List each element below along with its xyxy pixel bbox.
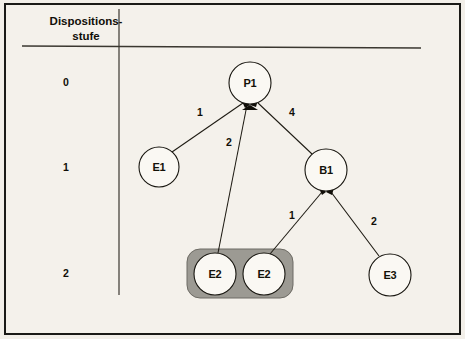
node-p1-label: P1 bbox=[243, 77, 256, 89]
node-b1-label: B1 bbox=[319, 164, 333, 176]
edge-label-e3-b1: 2 bbox=[371, 215, 377, 227]
edge-label-e2a-p1: 2 bbox=[226, 136, 232, 148]
node-e2-first[interactable]: E2 bbox=[194, 253, 236, 295]
header-title-line1: Dispositions- bbox=[50, 15, 123, 27]
node-p1[interactable]: P1 bbox=[229, 62, 271, 104]
edge-e1-to-p1 bbox=[172, 103, 243, 152]
node-e1-label: E1 bbox=[152, 161, 165, 173]
node-e1[interactable]: E1 bbox=[139, 147, 179, 187]
node-e2-first-label: E2 bbox=[208, 268, 221, 280]
header-horizontal-rule bbox=[22, 46, 421, 48]
disposition-level-diagram: Dispositions- stufe 0 1 2 bbox=[0, 0, 465, 339]
node-e2-second-label: E2 bbox=[257, 268, 270, 280]
edge-e2b-to-b1 bbox=[270, 192, 322, 254]
header-title-line2: stufe bbox=[72, 30, 99, 42]
node-e3-label: E3 bbox=[383, 269, 396, 281]
level-label-2: 2 bbox=[63, 267, 69, 279]
level-label-1: 1 bbox=[63, 161, 69, 173]
edge-label-e1-p1: 1 bbox=[197, 106, 203, 118]
figure-canvas: Dispositions- stufe 0 1 2 bbox=[0, 0, 465, 339]
edge-b1-to-p1 bbox=[258, 103, 312, 154]
level-label-0: 0 bbox=[63, 76, 69, 88]
edge-label-b1-p1: 4 bbox=[289, 106, 295, 118]
node-e2-second[interactable]: E2 bbox=[243, 253, 285, 295]
edge-label-e2b-b1: 1 bbox=[289, 209, 295, 221]
edge-e2a-to-p1 bbox=[218, 105, 247, 253]
node-e3[interactable]: E3 bbox=[369, 254, 411, 296]
node-b1[interactable]: B1 bbox=[305, 149, 347, 191]
